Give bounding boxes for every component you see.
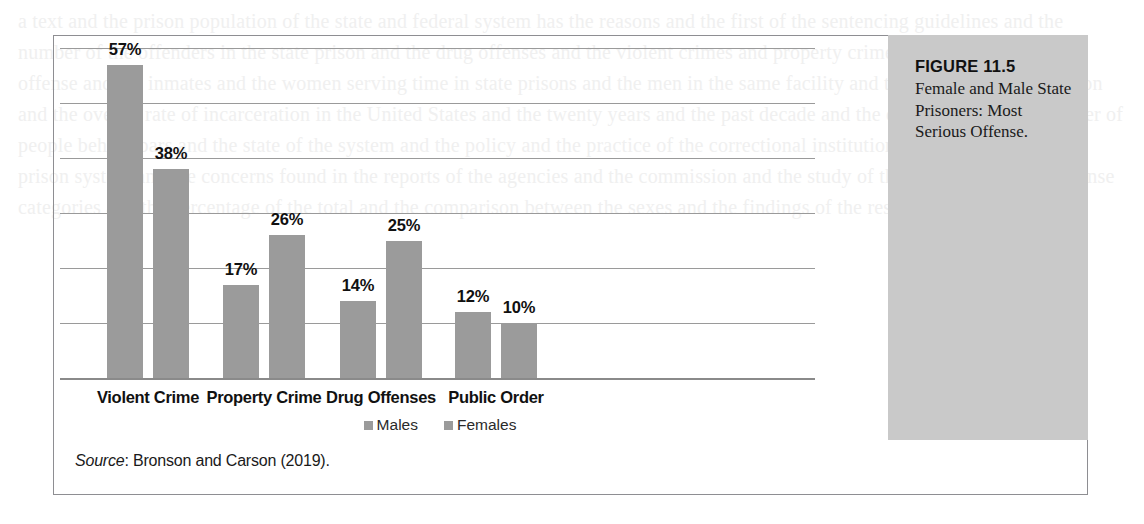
legend-label: Males [377, 416, 418, 434]
legend-item-males: Males [364, 416, 418, 434]
bar-males-property-crime: 17% [223, 285, 259, 379]
bar-value-label: 10% [484, 298, 554, 317]
chart-legend: MalesFemales [60, 416, 820, 434]
source-label: Source [75, 452, 125, 469]
bar-females-property-crime: 26% [269, 235, 305, 378]
bar-group: 12%10% [455, 48, 545, 380]
bar-group: 57%38% [107, 48, 197, 380]
bar-males-public-order: 12% [455, 312, 491, 378]
x-axis-line [60, 378, 815, 380]
bar-females-drug-offenses: 25% [386, 241, 422, 379]
bar-value-label: 57% [90, 40, 160, 59]
bar-females-violent-crime: 38% [153, 169, 189, 378]
bar-group: 17%26% [223, 48, 313, 380]
bar-group: 14%25% [340, 48, 430, 380]
legend-swatch-icon [364, 421, 373, 430]
bar-value-label: 17% [206, 260, 276, 279]
plot-area: 57%38%17%26%14%25%12%10% [60, 48, 815, 380]
figure-number-label: FIGURE 11.5 [915, 57, 1074, 76]
legend-item-females: Females [444, 416, 516, 434]
category-label-public-order: Public Order [396, 388, 596, 407]
bar-males-violent-crime: 57% [107, 65, 143, 379]
bar-value-label: 14% [323, 276, 393, 295]
source-note: Source: Bronson and Carson (2019). [75, 452, 330, 470]
source-separator: : [125, 452, 134, 469]
legend-swatch-icon [444, 421, 453, 430]
figure-caption-panel: FIGURE 11.5 Female and Male State Prison… [888, 35, 1088, 440]
bar-value-label: 25% [369, 216, 439, 235]
bar-value-label: 26% [252, 210, 322, 229]
legend-label: Females [457, 416, 516, 434]
bar-chart: 57%38%17%26%14%25%12%10% Violent CrimePr… [60, 48, 820, 394]
bar-males-drug-offenses: 14% [340, 301, 376, 378]
figure-caption-text: Female and Male State Prisoners: Most Se… [915, 78, 1074, 143]
bar-females-public-order: 10% [501, 323, 537, 378]
source-text: Bronson and Carson (2019). [133, 452, 330, 469]
bar-value-label: 38% [136, 144, 206, 163]
